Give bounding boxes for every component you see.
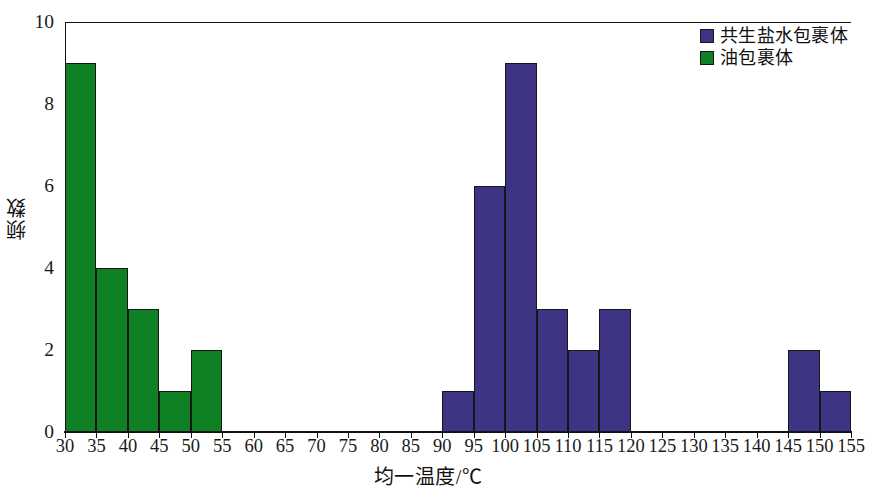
y-tick-label: 4 [14, 258, 54, 278]
histogram-bar [159, 391, 190, 432]
legend-label: 油包裹体 [720, 49, 793, 67]
y-tick-label: 2 [14, 340, 54, 360]
histogram-bar [599, 309, 630, 432]
legend-label: 共生盐水包裹体 [720, 27, 848, 45]
y-axis-title: 频数 [2, 196, 31, 240]
histogram-bar [537, 309, 568, 432]
y-tick-label: 6 [14, 176, 54, 196]
histogram-bar [442, 391, 473, 432]
y-tick-label: 10 [14, 12, 54, 32]
histogram-bar [96, 268, 127, 432]
histogram-bar [191, 350, 222, 432]
bars-layer [65, 22, 851, 432]
legend-item: 油包裹体 [700, 49, 848, 67]
histogram-bar [128, 309, 159, 432]
histogram-bar [820, 391, 851, 432]
histogram-bar [568, 350, 599, 432]
histogram-bar [788, 350, 819, 432]
histogram-bar [65, 63, 96, 432]
legend-swatch-icon [700, 51, 714, 65]
histogram-bar [505, 63, 536, 432]
y-tick-label: 8 [14, 94, 54, 114]
x-tick-label: 155 [829, 437, 869, 456]
histogram-bar [474, 186, 505, 432]
x-axis-title: 均一温度/℃ [0, 461, 856, 488]
legend-swatch-icon [700, 29, 714, 43]
legend: 共生盐水包裹体油包裹体 [700, 27, 848, 67]
legend-item: 共生盐水包裹体 [700, 27, 848, 45]
